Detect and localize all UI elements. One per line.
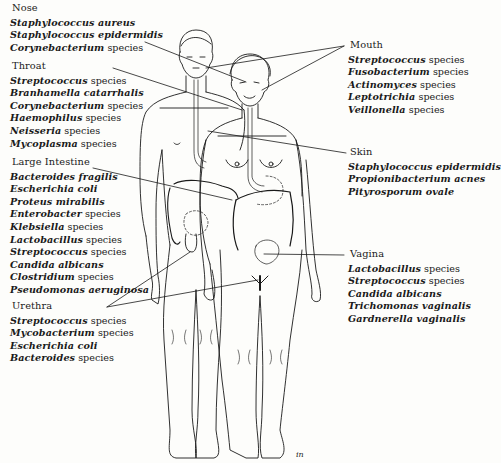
- organism-item: Haemophilus species: [10, 112, 144, 125]
- organism-item: Propionibacterium acnes: [348, 173, 501, 186]
- organism-item: Corynebacterium species: [10, 42, 163, 55]
- organism-item: Fusobacterium species: [348, 66, 469, 79]
- organism-item: Pseudomonas aeruginosa: [10, 284, 149, 297]
- organism-item: Candida albicans: [348, 288, 471, 301]
- organism-item: Corynebacterium species: [10, 100, 144, 113]
- organism-item: Branhamella catarrhalis: [10, 87, 144, 100]
- region-vagina: Vagina Lactobacillus species Streptococc…: [348, 248, 471, 326]
- organism-item: Lactobacillus species: [10, 234, 149, 247]
- organism-item: Escherichia coli: [10, 340, 134, 353]
- organism-item: Streptococcus species: [10, 75, 144, 88]
- organism-item: Streptococcus species: [10, 315, 134, 328]
- organism-item: Bacteroides fragilis: [10, 171, 149, 184]
- region-label: Mouth: [350, 39, 469, 52]
- organism-item: Mycoplasma species: [10, 138, 144, 151]
- organism-item: Klebsiella species: [10, 221, 149, 234]
- female-figure: [200, 54, 321, 458]
- organism-item: Leptotrichia species: [348, 91, 469, 104]
- organism-item: Streptococcus species: [348, 275, 471, 288]
- artist-signature: in: [296, 450, 304, 459]
- region-label: Vagina: [350, 248, 471, 261]
- organism-item: Candida albicans: [10, 259, 149, 272]
- organism-item: Staphylococcus aureus: [10, 17, 163, 30]
- organism-item: Neisseria species: [10, 125, 144, 138]
- region-label: Skin: [350, 146, 501, 159]
- organism-item: Clostridium species: [10, 271, 149, 284]
- organism-item: Gardnerella vaginalis: [348, 313, 471, 326]
- organism-item: Bacteroides species: [10, 352, 134, 365]
- region-label: Throat: [12, 60, 144, 73]
- organism-item: Pityrosporum ovale: [348, 186, 501, 199]
- organism-item: Streptococcus species: [10, 246, 149, 259]
- region-nose: Nose Staphylococcus aureus Staphylococcu…: [10, 2, 163, 54]
- organism-item: Mycobacterium species: [10, 327, 134, 340]
- organism-item: Lactobacillus species: [348, 263, 471, 276]
- region-label: Nose: [12, 2, 163, 15]
- region-throat: Throat Streptococcus species Branhamella…: [10, 60, 144, 150]
- region-urethra: Urethra Streptococcus species Mycobacter…: [10, 300, 134, 365]
- organism-item: Proteus mirabilis: [10, 196, 149, 209]
- organism-item: Staphylococcus epidermidis: [10, 29, 163, 42]
- organism-item: Trichomonas vaginalis: [348, 300, 471, 313]
- organism-item: Veillonella species: [348, 104, 469, 117]
- organism-item: Escherichia coli: [10, 183, 149, 196]
- region-mouth: Mouth Streptococcus species Fusobacteriu…: [348, 39, 469, 117]
- region-large-intestine: Large Intestine Bacteroides fragilis Esc…: [10, 156, 149, 297]
- organism-item: Streptococcus species: [348, 54, 469, 67]
- organism-item: Staphylococcus epidermidis: [348, 161, 501, 174]
- organism-item: Actinomyces species: [348, 79, 469, 92]
- organism-item: Enterobacter species: [10, 208, 149, 221]
- region-label: Large Intestine: [12, 156, 149, 169]
- region-skin: Skin Staphylococcus epidermidis Propioni…: [348, 146, 501, 198]
- region-label: Urethra: [12, 300, 134, 313]
